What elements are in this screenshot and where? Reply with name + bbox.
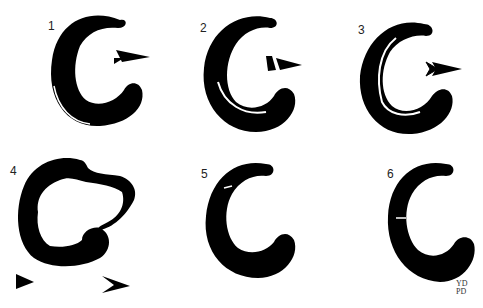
chevron-arrowhead-icon (0, 150, 170, 308)
panel-4: 4 (0, 150, 170, 308)
narrow-wedge-arrow-icon (0, 0, 170, 150)
panel-2: 2 (170, 0, 330, 150)
panel-6: 6 YD PD (350, 150, 483, 308)
crescent-shape (170, 150, 330, 308)
panel-3: 3 (320, 0, 483, 150)
split-wedge-arrow-icon (170, 0, 330, 150)
panel-5: 5 (170, 150, 330, 308)
chevron-arrow-icon (320, 0, 483, 150)
panel-1: 1 (0, 0, 170, 150)
artist-signature: YD PD (456, 280, 468, 296)
